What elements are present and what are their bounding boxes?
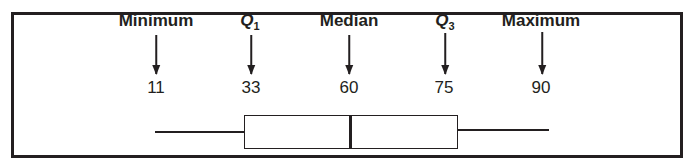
q1-arrow-icon: [250, 35, 252, 74]
minimum-value: 11: [147, 78, 165, 98]
right-whisker: [458, 129, 549, 131]
maximum-value: 90: [532, 78, 551, 98]
median-line: [349, 115, 352, 149]
left-whisker: [155, 131, 245, 133]
q3-label: Q3: [435, 11, 454, 32]
maximum-arrow-icon: [541, 32, 543, 74]
q3-arrow-icon: [444, 33, 446, 74]
median-value: 60: [340, 78, 359, 98]
q3-label-sub: 3: [449, 20, 455, 32]
q1-label-main: Q: [240, 11, 253, 30]
median-label: Median: [320, 11, 379, 31]
q3-value: 75: [435, 78, 454, 98]
maximum-label: Maximum: [502, 11, 580, 31]
q3-label-main: Q: [435, 11, 448, 30]
q1-label: Q1: [240, 11, 259, 32]
q1-value: 33: [242, 78, 261, 98]
median-arrow-icon: [348, 35, 350, 74]
minimum-label: Minimum: [119, 11, 194, 31]
minimum-arrow-icon: [155, 35, 157, 74]
q1-label-sub: 1: [254, 20, 260, 32]
